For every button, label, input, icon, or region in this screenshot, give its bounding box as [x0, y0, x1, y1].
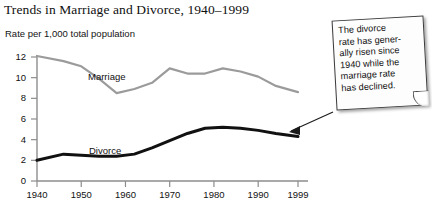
x-axis-ticks — [37, 181, 298, 187]
y-axis-ticks — [31, 57, 37, 181]
y-tick-label: 2 — [4, 154, 26, 165]
x-tick-label: 1980 — [194, 189, 234, 200]
chart-figure: Trends in Marriage and Divorce, 1940–199… — [0, 0, 432, 213]
y-tick-label: 8 — [4, 92, 26, 103]
series-line-marriage — [37, 56, 298, 93]
y-tick-label: 0 — [4, 175, 26, 186]
y-tick-label: 4 — [4, 134, 26, 145]
x-tick-label: 1990 — [238, 189, 278, 200]
series-label-marriage: Marriage — [88, 71, 126, 82]
annotation-callout: The divorcerate has gener-ally risen sin… — [332, 16, 429, 111]
y-tick-label: 6 — [4, 113, 26, 124]
series-label-divorce: Divorce — [89, 145, 121, 156]
y-tick-label: 12 — [4, 51, 26, 62]
x-tick-label: 1940 — [17, 189, 57, 200]
data-series-group — [37, 56, 298, 160]
series-line-divorce — [37, 127, 298, 160]
callout-text: The divorcerate has gener-ally risen sin… — [338, 21, 423, 95]
x-tick-label: 1960 — [105, 189, 145, 200]
x-tick-label: 1970 — [150, 189, 190, 200]
callout-arrow — [289, 112, 333, 135]
axes — [31, 55, 308, 187]
y-tick-label: 10 — [4, 72, 26, 83]
x-tick-label: 1950 — [61, 189, 101, 200]
x-tick-label: 1999 — [278, 189, 318, 200]
